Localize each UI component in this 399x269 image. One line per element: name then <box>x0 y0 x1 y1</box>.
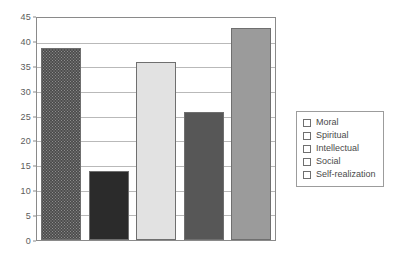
y-axis-label-35: 35 <box>21 62 31 72</box>
legend-label-self-realization: Self-realization <box>316 169 376 180</box>
plot-area <box>36 17 276 241</box>
y-axis-label-20: 20 <box>21 136 31 146</box>
bar-group <box>37 18 275 240</box>
y-axis: 45 40 35 30 25 20 15 10 5 0 <box>0 17 36 241</box>
legend-label-spiritual: Spiritual <box>316 130 349 141</box>
legend-label-social: Social <box>316 156 341 167</box>
y-axis-label-10: 10 <box>21 186 31 196</box>
y-axis-label-40: 40 <box>21 37 31 47</box>
bar-intellectual[interactable] <box>136 62 176 240</box>
legend-item-social[interactable]: Social <box>303 156 376 167</box>
y-axis-label-5: 5 <box>26 211 31 221</box>
legend-label-intellectual: Intellectual <box>316 143 359 154</box>
legend-swatch-self-realization <box>303 171 311 179</box>
legend-swatch-intellectual <box>303 145 311 153</box>
y-axis-label-45: 45 <box>21 12 31 22</box>
legend-swatch-spiritual <box>303 132 311 140</box>
bar-chart: 45 40 35 30 25 20 15 10 5 0 <box>0 0 399 269</box>
y-axis-label-25: 25 <box>21 112 31 122</box>
legend-item-moral[interactable]: Moral <box>303 117 376 128</box>
y-axis-label-15: 15 <box>21 161 31 171</box>
y-axis-label-30: 30 <box>21 87 31 97</box>
y-axis-label-0: 0 <box>26 236 31 246</box>
bar-moral[interactable] <box>41 48 81 240</box>
legend: Moral Spiritual Intellectual Social Self… <box>296 111 384 187</box>
bar-spiritual[interactable] <box>89 171 129 240</box>
legend-item-self-realization[interactable]: Self-realization <box>303 169 376 180</box>
legend-swatch-moral <box>303 119 311 127</box>
bar-social[interactable] <box>184 112 224 240</box>
legend-swatch-social <box>303 158 311 166</box>
bar-self-realization[interactable] <box>231 28 271 240</box>
legend-item-intellectual[interactable]: Intellectual <box>303 143 376 154</box>
legend-item-spiritual[interactable]: Spiritual <box>303 130 376 141</box>
legend-label-moral: Moral <box>316 117 339 128</box>
